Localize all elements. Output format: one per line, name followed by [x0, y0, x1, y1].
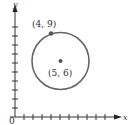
center-point-label: (5, 6): [48, 68, 72, 78]
x-axis-arrow-icon: [114, 115, 122, 120]
x-axis: [10, 114, 122, 120]
circle-point: [49, 31, 53, 35]
coordinate-plane: y x 0 (5, 6) (4, 9): [0, 0, 128, 125]
x-axis-label: x: [123, 113, 128, 122]
circle-point-label: (4, 9): [32, 19, 56, 29]
y-axis-label: y: [12, 0, 18, 9]
y-axis: [12, 4, 18, 117]
center-point: [59, 59, 63, 63]
origin-label: 0: [9, 116, 15, 125]
